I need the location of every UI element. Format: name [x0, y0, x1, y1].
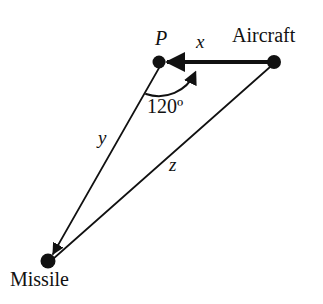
side-x-label: x: [196, 32, 204, 51]
point-p-label: P: [155, 28, 167, 48]
missile-label: Missile: [10, 269, 69, 289]
vertex-dot-p: [153, 56, 166, 69]
angle-label: 120º: [147, 96, 183, 116]
aircraft-label: Aircraft: [232, 25, 295, 45]
side-z-label: z: [169, 155, 176, 174]
side-y-line: [53, 68, 159, 254]
vertex-dot-aircraft: [267, 55, 281, 69]
geometry-diagram: Aircraft Missile P x y z 120º: [0, 0, 323, 304]
side-y-label: y: [98, 128, 106, 147]
vertex-dot-missile: [41, 254, 56, 269]
